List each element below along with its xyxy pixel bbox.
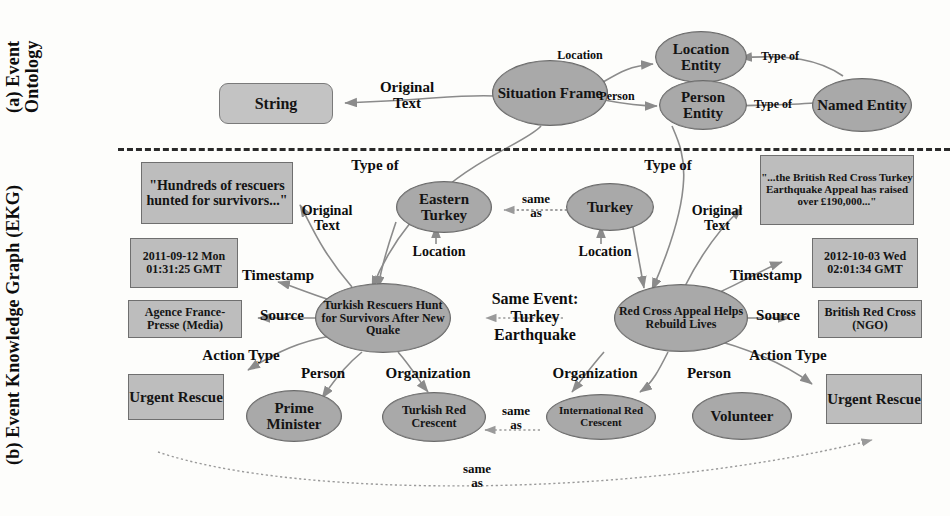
edge-label-source-left: Source (248, 308, 316, 324)
edge-label-same-event: Same Event: Turkey Earthquake (468, 290, 602, 344)
node-left-action-type[interactable]: Urgent Rescue (128, 374, 224, 420)
node-right-organization[interactable]: International Red Crescent (546, 394, 656, 440)
edge-label-source-right: Source (744, 308, 812, 324)
edge-label-organization-left: Organization (372, 366, 484, 382)
edge-label-timestamp-left: Timestamp (228, 268, 328, 284)
node-right-location[interactable]: Turkey (566, 183, 654, 231)
edge-label-action-type-left: Action Type (186, 348, 296, 364)
node-layer: (a) Event Ontology (b) Event Knowledge G… (0, 0, 950, 516)
node-right-event[interactable]: Red Cross Appeal Helps Rebuild Lives (614, 284, 748, 352)
edge-label-same-as-locations: same as (505, 192, 567, 219)
node-left-timestamp[interactable]: 2011-09-12 Mon 01:31:25 GMT (130, 238, 238, 288)
edge-label-location-left: Location (400, 245, 478, 260)
edge-label-type-of-location: Type of (745, 50, 815, 63)
node-named-entity[interactable]: Named Entity (812, 78, 912, 132)
edge-label-location-right: Location (566, 245, 644, 260)
node-left-original-text[interactable]: "Hundreds of rescuers hunted for survivo… (141, 162, 293, 224)
node-right-source[interactable]: British Red Cross (NGO) (818, 300, 922, 338)
node-left-location[interactable]: Eastern Turkey (396, 181, 492, 233)
edge-label-type-of-left: Type of (335, 158, 415, 174)
node-location-entity[interactable]: Location Entity (655, 31, 747, 83)
node-left-person[interactable]: Prime Minister (246, 390, 342, 442)
node-string[interactable]: String (219, 83, 333, 124)
node-left-source[interactable]: Agence France- Presse (Media) (128, 300, 242, 338)
edge-label-person-ontology: Person (586, 90, 648, 103)
node-left-organization[interactable]: Turkish Red Crescent (382, 392, 486, 442)
edge-label-action-type-right: Action Type (732, 348, 844, 364)
edge-label-location-ontology: Location (545, 49, 615, 62)
edge-label-person-left: Person (290, 366, 356, 382)
figure-canvas: (a) Event Ontology (b) Event Knowledge G… (0, 0, 950, 516)
panel-label-a: (a) Event Ontology (4, 16, 58, 138)
node-right-person[interactable]: Volunteer (692, 392, 792, 440)
node-right-original-text[interactable]: "...the British Red Cross Turkey Earthqu… (760, 155, 914, 225)
edge-label-original-text-ontology: Original Text (357, 80, 457, 112)
edge-label-same-as-organizations: same as (487, 404, 545, 431)
edge-label-type-of-person: Type of (738, 98, 808, 111)
edge-label-same-as-actions: same as (442, 462, 512, 489)
node-right-timestamp[interactable]: 2012-10-03 Wed 02:01:34 GMT (812, 238, 918, 288)
edge-label-organization-right: Organization (536, 366, 654, 382)
edge-label-timestamp-right: Timestamp (716, 268, 816, 284)
node-person-entity[interactable]: Person Entity (659, 80, 747, 130)
edge-label-person-right: Person (676, 366, 742, 382)
panel-divider (118, 148, 950, 151)
edge-label-type-of-right: Type of (628, 158, 708, 174)
edge-label-original-text-right: Original Text (678, 204, 756, 233)
node-right-action-type[interactable]: Urgent Rescue (826, 374, 922, 424)
edge-label-original-text-left: Original Text (288, 204, 366, 233)
node-left-event[interactable]: Turkish Rescuers Hunt for Survivors Afte… (315, 283, 451, 353)
panel-label-b: (b) Event Knowledge Graph (EKG) (4, 180, 58, 470)
